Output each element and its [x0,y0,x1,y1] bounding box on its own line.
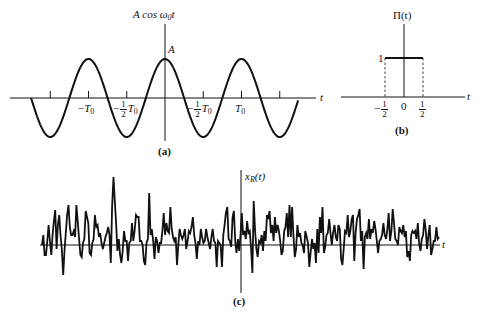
fraction: 12 [120,100,127,119]
denominator: 2 [121,110,126,119]
panel-a-caption: (a) [158,146,171,157]
fraction: 12 [381,100,388,119]
panel-c-caption: (c) [233,296,245,307]
y-label-suffix: (t) [255,170,265,182]
minus-sign: − [187,102,193,114]
tick-label-minus-half-T0-left: −12T0 [113,100,138,119]
panel-a-axes [10,24,316,141]
figure-canvas [0,0,481,317]
panel-b-x-label: t [467,91,470,102]
fraction: 12 [194,100,201,119]
panel-b-height-label: 1 [378,53,384,64]
panel-a-x-label: t [320,92,323,103]
tick-label-minus-half-T0-right: −12T0 [187,100,212,119]
panel-b-tick-half: 12 [418,100,427,119]
panel-a-amplitude-label: A [168,44,175,55]
denominator: 2 [195,110,200,119]
minus-sign: − [113,102,119,114]
panel-c-y-label: xR(t) [245,171,265,184]
panel-b-tick-zero: 0 [401,101,407,112]
fraction: 12 [419,100,426,119]
panel-b-y-label: Π(t) [393,10,411,21]
y-label-suffix: t [171,8,174,20]
panel-b-caption: (b) [395,125,408,136]
tick-subscript: 0 [208,107,212,116]
panel-c-x-label: t [442,239,445,250]
panel-c-axes [40,170,440,293]
tick-subscript: 0 [90,107,94,116]
denominator: 2 [420,110,425,119]
tick-label-minus-T0: −T0 [78,103,94,116]
panel-b-axes [341,24,465,97]
tick-subscript: 0 [241,107,245,116]
minus-sign: − [374,102,380,114]
panel-a-y-label: A cos ω0t [133,9,175,22]
tick-label-T0: T0 [235,103,245,116]
tick-subscript: 0 [134,107,138,116]
y-label-prefix: A cos ω [133,8,167,20]
panel-b-tick-minus-half: −12 [374,100,389,119]
denominator: 2 [382,110,387,119]
